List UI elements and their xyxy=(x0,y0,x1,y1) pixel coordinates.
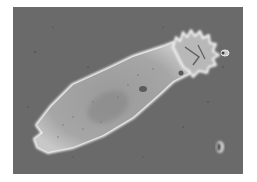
particle xyxy=(216,141,224,153)
micrograph xyxy=(13,7,243,174)
rotifer-illustration xyxy=(13,7,243,174)
mastax xyxy=(139,86,147,92)
neck-spot xyxy=(179,71,184,76)
